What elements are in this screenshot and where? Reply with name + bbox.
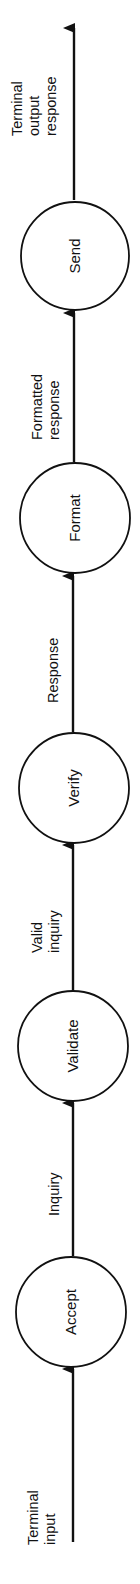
edge-label-line: response — [43, 76, 59, 136]
edge-label-line: Inquiry — [46, 1172, 62, 1216]
node-verify: Verify — [19, 733, 129, 843]
edge-terminal-input: Terminal input — [25, 1369, 73, 1545]
edge-response: Response — [45, 576, 73, 732]
node-validate: Validate — [18, 991, 128, 1101]
node-label: Format — [66, 493, 83, 541]
edge-valid-inquiry: Valid inquiry — [29, 845, 73, 991]
edge-inquiry: Inquiry — [46, 1103, 73, 1256]
node-label: Verify — [65, 769, 82, 807]
svg-text:Formatted response: Formatted response — [29, 370, 62, 440]
node-label: Accept — [62, 1288, 79, 1335]
node-label: Send — [66, 238, 83, 273]
svg-text:Terminal input: Terminal input — [25, 1486, 58, 1545]
edge-label-line: Terminal — [25, 1490, 41, 1545]
svg-text:Terminal output: Terminal output response — [9, 76, 59, 136]
edge-label-line: response — [46, 380, 62, 440]
edge-label-line: input — [42, 1514, 58, 1545]
edge-label-line: Formatted — [29, 374, 45, 440]
node-label: Validate — [64, 1019, 81, 1072]
svg-text:Inquiry: Inquiry — [46, 1172, 62, 1216]
svg-text:Valid inquiry: Valid inquiry — [29, 910, 62, 953]
edge-terminal-output-response: Terminal output response — [9, 28, 74, 200]
data-flow-diagram: Terminal input Inquiry Valid inquiry Res… — [0, 0, 140, 1584]
edge-label-line: Valid — [29, 922, 45, 953]
node-format: Format — [20, 463, 130, 573]
svg-text:Response: Response — [45, 638, 61, 703]
edge-label-line: Terminal — [9, 81, 25, 136]
edge-label-line: output — [26, 96, 42, 136]
edge-label-line: inquiry — [46, 910, 62, 953]
edge-formatted-response: Formatted response — [29, 313, 74, 462]
node-accept: Accept — [16, 1257, 126, 1367]
edge-label-line: Response — [45, 638, 61, 703]
node-send: Send — [21, 202, 129, 310]
